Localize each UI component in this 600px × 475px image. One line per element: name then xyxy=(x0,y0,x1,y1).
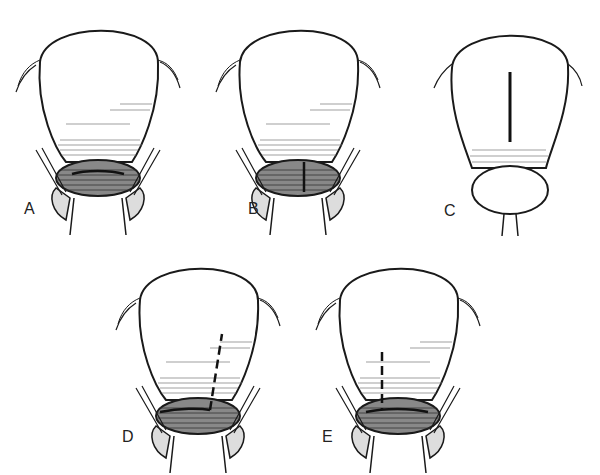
uterus-low-vertical-icon xyxy=(200,0,400,240)
panel-label: C xyxy=(444,202,456,220)
panel-label: E xyxy=(322,428,333,446)
panel-label: A xyxy=(24,200,35,218)
panel-e: E xyxy=(300,238,500,475)
uterus-classical-icon xyxy=(400,0,600,240)
panel-d: D xyxy=(100,238,300,475)
panel-b: B xyxy=(200,0,400,240)
panel-c: C xyxy=(400,0,600,240)
panel-label: B xyxy=(248,200,259,218)
panel-a: A xyxy=(0,0,200,240)
panel-label: D xyxy=(122,428,134,446)
